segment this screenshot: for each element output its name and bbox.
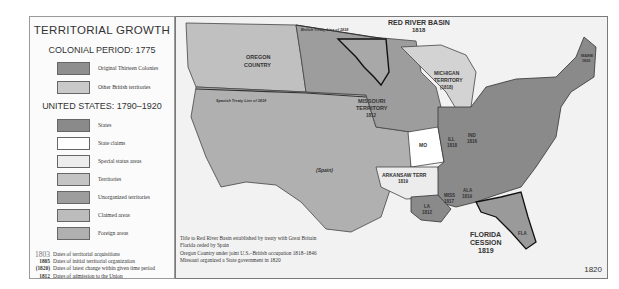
label-mo: MO: [419, 142, 427, 148]
label-spanish-treaty: Spanish Treaty Line of 1819: [216, 99, 267, 103]
legend-label: State claims: [98, 137, 125, 150]
legend-notes: 1803Dates of territorial acquisitions 18…: [33, 251, 155, 280]
map-caption: Title to Red River Basin established by …: [180, 235, 317, 264]
label-maine-year: 1820: [582, 59, 590, 63]
label-la-year: 1812: [422, 210, 433, 215]
label-red-river-year: 1818: [412, 27, 426, 33]
swatch-special-status: [57, 155, 90, 168]
label-ala: ALA: [463, 188, 473, 193]
us-heading: UNITED STATES: 1790–1920: [30, 101, 174, 111]
label-miss-year: 1817: [444, 199, 455, 204]
swatch-territories: [57, 173, 90, 186]
caption-line: Florida ceded by Spain: [180, 242, 317, 249]
label-michigan-territory: TERRITORY: [434, 77, 463, 83]
legend-label: Special status areas: [98, 155, 142, 168]
swatch-states: [57, 119, 90, 132]
label-michigan-year: (1818): [440, 85, 454, 90]
label-la: LA: [424, 204, 431, 209]
map-legend: TERRITORIAL GROWTH COLONIAL PERIOD: 1775…: [29, 16, 175, 279]
colonial-heading: COLONIAL PERIOD: 1775: [30, 45, 174, 55]
label-florida: FLORIDA: [470, 231, 501, 238]
label-miss: MISS: [444, 193, 455, 198]
label-british-treaty: British Treaty Line of 1818: [301, 28, 349, 32]
label-ind: IND: [468, 133, 477, 138]
label-red-river: RED RIVER BASIN: [388, 19, 450, 26]
caption-line: Title to Red River Basin established by …: [180, 235, 317, 242]
legend-label: Original Thirteen Colonies: [98, 62, 158, 75]
swatch-claimed: [57, 209, 90, 222]
caption-line: Oregon Country under joint U.S.–British …: [180, 250, 317, 257]
label-cession: CESSION: [470, 239, 502, 246]
swatch-unorganized: [57, 191, 90, 204]
caption-line: Missouri organized a State government in…: [180, 257, 317, 264]
note-label: Dates of initial territorial organizatio…: [53, 258, 135, 265]
label-ill-year: 1818: [447, 143, 458, 148]
label-missouri-year: 1812: [366, 113, 377, 118]
map-year: 1820: [584, 265, 602, 274]
legend-label: Foreign areas: [98, 227, 128, 240]
legend-title: TERRITORIAL GROWTH: [30, 24, 174, 36]
swatch-foreign: [57, 227, 90, 240]
legend-label: Other British territories: [98, 81, 151, 94]
label-michigan: MICHIGAN: [434, 70, 460, 76]
label-oregon: OREGON: [246, 54, 270, 60]
label-florida-year: 1819: [478, 247, 494, 254]
label-maine: MAINE: [581, 54, 594, 58]
note-key: (1820): [33, 265, 50, 272]
note-label: Dates of latest change within given time…: [53, 265, 155, 272]
label-arkansaw-year: 1819: [398, 179, 409, 184]
swatch-other-british: [57, 81, 90, 94]
note-key: 1805: [33, 258, 50, 265]
legend-label: Territories: [98, 173, 121, 186]
label-ala-year: 1819: [462, 194, 473, 199]
note-key: 1803: [33, 251, 50, 258]
label-ill: ILL: [448, 137, 455, 142]
label-missouri-territory: TERRITORY: [356, 105, 388, 111]
note-key: 1812: [33, 273, 50, 280]
label-arkansaw: ARKANSAW TERR: [382, 172, 427, 178]
label-ind-year: 1816: [467, 139, 478, 144]
note-label: Dates of admission to the Union: [53, 273, 123, 280]
legend-label: Unorganized territories: [98, 191, 150, 204]
swatch-original-colonies: [57, 62, 90, 75]
label-country: COUNTRY: [244, 62, 271, 68]
swatch-state-claims: [57, 137, 90, 150]
legend-label: Claimed areas: [98, 209, 130, 222]
label-fla: FLA: [518, 231, 527, 236]
label-missouri: MISSOURI: [358, 98, 386, 104]
note-label: Dates of territorial acquisitions: [53, 251, 120, 258]
map-frame: OREGON COUNTRY British Treaty Line of 18…: [175, 16, 608, 279]
legend-label: States: [98, 119, 111, 132]
label-spain: (Spain): [316, 167, 333, 173]
